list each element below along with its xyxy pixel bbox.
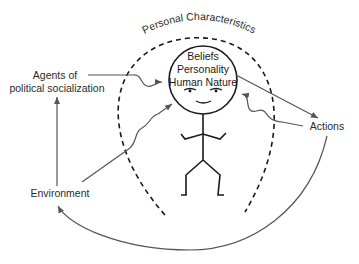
- node-actions: Actions: [310, 120, 344, 132]
- edge-actions-to-environment: [58, 136, 327, 250]
- stick-figure-body: [181, 114, 226, 195]
- head-text-personality: Personality: [177, 63, 230, 75]
- node-environment: Environment: [31, 187, 90, 199]
- head-text-beliefs: Beliefs: [187, 50, 219, 62]
- diagram-svg: Personal Characteristics Beliefs Persona…: [0, 0, 359, 264]
- edge-head-to-actions: [236, 75, 318, 118]
- edge-environment-to-head: [82, 104, 172, 182]
- diagram-canvas: Personal Characteristics Beliefs Persona…: [0, 0, 359, 264]
- head-text-human-nature: Human Nature: [169, 76, 237, 88]
- personal-characteristics-label: Personal Characteristics: [140, 10, 258, 36]
- node-agents-line1: Agents of: [33, 69, 77, 81]
- node-agents-line2: political socialization: [9, 82, 104, 94]
